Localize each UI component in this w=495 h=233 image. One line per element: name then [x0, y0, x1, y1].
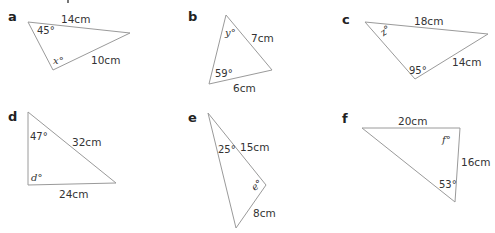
angle-b-59: 59° [215, 68, 233, 79]
triangle-e: e 15cm 8cm 25° e° [188, 110, 276, 228]
side-a-top: 14cm [61, 13, 90, 25]
part-label-e: e [188, 110, 197, 125]
angle-a-45: 45° [37, 25, 55, 36]
part-label-f: f [342, 111, 348, 126]
part-label-c: c [342, 12, 350, 27]
part-label-b: b [188, 9, 197, 24]
triangle-diagram: a 14cm 10cm 45° x° b 7cm 6cm y° 59° c 18… [0, 0, 495, 233]
angle-f-f: f° [441, 134, 451, 145]
angle-d-47: 47° [30, 131, 48, 142]
side-e-top: 15cm [240, 141, 269, 153]
triangle-f: f 20cm 16cm f° 53° [342, 111, 490, 202]
angle-e-25: 25° [218, 144, 236, 155]
side-c-right: 14cm [452, 56, 481, 68]
part-label-a: a [8, 9, 17, 24]
triangle-b: b 7cm 6cm y° 59° [188, 9, 274, 94]
side-d-hyp: 32cm [72, 136, 101, 148]
side-b-right: 7cm [251, 32, 274, 44]
side-a-right: 10cm [91, 54, 120, 66]
angle-c-z: z° [377, 23, 393, 39]
side-e-bottom: 8cm [253, 207, 276, 219]
angle-a-x: x° [53, 55, 64, 66]
triangle-c: c 18cm 14cm z° 95° [342, 12, 488, 79]
part-label-d: d [8, 109, 17, 124]
side-b-bottom: 6cm [233, 82, 256, 94]
angle-f-53: 53° [439, 179, 457, 190]
triangle-d: d 32cm 24cm 47° d° [8, 109, 116, 200]
side-f-top: 20cm [398, 115, 427, 127]
angle-b-y: y° [224, 27, 236, 38]
angle-d-d: d° [31, 172, 42, 183]
triangle-a: a 14cm 10cm 45° x° [8, 9, 130, 70]
side-d-bottom: 24cm [59, 188, 88, 200]
angle-c-95: 95° [409, 65, 427, 76]
side-c-top: 18cm [414, 15, 443, 27]
side-f-right: 16cm [461, 156, 490, 168]
